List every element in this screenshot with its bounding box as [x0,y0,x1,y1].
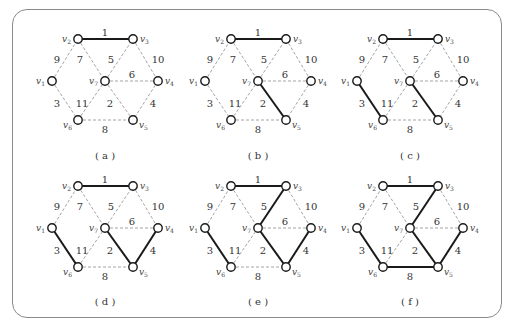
edge-weight-label: 9 [207,201,213,212]
edge-weight-label: 3 [359,245,365,256]
edge-weight-label: 1 [255,174,261,185]
panel-caption-e: ( e ) [248,296,268,307]
vertex-label-v5: v5 [444,267,453,278]
edge-weight-label: 7 [77,201,83,212]
vertex-v6 [379,263,387,271]
vertex-label-v4: v4 [318,223,327,234]
edge-weight-label: 2 [260,245,266,256]
panel-caption-b: ( b ) [248,150,269,161]
edge-weight-label: 1 [102,27,108,38]
vertex-label-v4: v4 [165,223,174,234]
edge-weight-label: 11 [229,245,242,256]
edge-weight-label: 1 [407,174,413,185]
panel-b: 1234567891011v1v2v3v4v5v6v7 [189,27,327,135]
vertex-label-v2: v2 [367,34,376,45]
panel-a: 1234567891011v1v2v3v4v5v6v7 [36,27,174,135]
vertex-v3 [282,182,290,190]
vertex-label-v7: v7 [242,223,251,234]
vertex-v4 [307,77,315,85]
vertex-label-v3: v3 [445,34,454,45]
vertex-v1 [353,224,361,232]
edge-weight-label: 9 [54,201,60,212]
vertex-label-v7: v7 [89,223,98,234]
edge-weight-label: 10 [457,54,470,65]
vertex-label-v3: v3 [140,34,149,45]
vertex-label-v6: v6 [368,120,377,131]
edge-weight-label: 2 [107,245,113,256]
vertex-label-v4: v4 [470,76,479,87]
edge-weight-label: 1 [407,27,413,38]
vertex-v7 [406,77,414,85]
edge-weight-label: 3 [207,98,213,109]
edge-weight-label: 6 [129,69,135,80]
vertex-label-v1: v1 [36,223,45,234]
vertex-v6 [379,116,387,124]
edge-weight-label: 1 [102,174,108,185]
vertex-label-v6: v6 [63,120,72,131]
edge-weight-label: 8 [255,124,261,135]
vertex-label-v1: v1 [189,76,198,87]
vertex-label-v6: v6 [216,120,225,131]
panel-caption-a: ( a ) [95,150,115,161]
edge-weight-label: 7 [382,54,388,65]
edge-weight-label: 9 [207,54,213,65]
vertex-label-v7: v7 [242,76,251,87]
vertex-v5 [434,263,442,271]
edge-weight-label: 10 [152,54,165,65]
vertex-v7 [254,224,262,232]
vertex-label-v6: v6 [63,267,72,278]
vertex-label-v2: v2 [367,181,376,192]
edge-weight-label: 10 [152,201,165,212]
edge-weight-label: 7 [382,201,388,212]
edge-weight-label: 6 [282,216,288,227]
vertex-label-v7: v7 [394,223,403,234]
vertex-label-v3: v3 [293,181,302,192]
edge-weight-label: 5 [108,201,114,212]
vertex-label-v4: v4 [318,76,327,87]
vertex-label-v7: v7 [394,76,403,87]
vertex-v2 [74,182,82,190]
edge-weight-label: 3 [54,98,60,109]
edge-weight-label: 11 [381,245,394,256]
panel-caption-c: ( c ) [400,150,420,161]
edge-weight-label: 8 [407,124,413,135]
vertex-label-v5: v5 [139,120,148,131]
edge-weight-label: 5 [108,54,114,65]
edge-weight-label: 10 [457,201,470,212]
vertex-v5 [282,116,290,124]
vertex-label-v6: v6 [368,267,377,278]
vertex-v4 [307,224,315,232]
edge-weight-label: 11 [229,98,242,109]
edge-weight-label: 6 [282,69,288,80]
edge-weight-label: 8 [407,271,413,282]
edge-weight-label: 5 [413,201,419,212]
vertex-v7 [406,224,414,232]
vertex-v6 [74,263,82,271]
vertex-v5 [129,263,137,271]
vertex-label-v5: v5 [139,267,148,278]
vertex-v3 [129,182,137,190]
edge-weight-label: 2 [412,98,418,109]
edge-weight-label: 8 [102,271,108,282]
vertex-label-v6: v6 [216,267,225,278]
panel-d: 1234567891011v1v2v3v4v5v6v7 [36,174,174,282]
vertex-label-v2: v2 [62,181,71,192]
vertex-label-v2: v2 [215,181,224,192]
vertex-v6 [74,116,82,124]
edge-weight-label: 11 [76,245,89,256]
vertex-v2 [379,35,387,43]
edge-weight-label: 9 [359,54,365,65]
vertex-v4 [154,224,162,232]
edge-weight-label: 7 [230,201,236,212]
vertex-v3 [282,35,290,43]
vertex-v2 [227,35,235,43]
vertex-v2 [74,35,82,43]
edge-weight-label: 5 [261,54,267,65]
vertex-v7 [101,224,109,232]
edge-weight-label: 2 [412,245,418,256]
vertex-v6 [227,116,235,124]
vertex-v5 [282,263,290,271]
edge-weight-label: 11 [381,98,394,109]
vertex-label-v4: v4 [470,223,479,234]
edge-weight-label: 6 [129,216,135,227]
